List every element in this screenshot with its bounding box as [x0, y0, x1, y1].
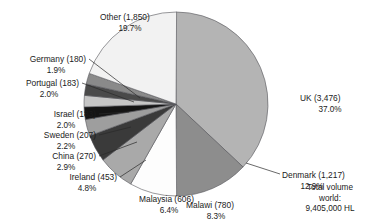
pie-label-name-germany: Germany (180) [30, 54, 87, 64]
pie-label-name-portugal: Portugal (183) [26, 78, 79, 88]
pie-chart-canvas: UK (3,476)37.0%Denmark (1,217)12.9%Malaw… [0, 0, 371, 224]
pie-label-percent-china: 2.9% [57, 163, 76, 172]
pie-label-percent-malawi: 8.3% [207, 212, 226, 221]
pie-label-percent-israel: 2.0% [57, 121, 76, 130]
pie-slices-group [84, 12, 268, 196]
total-volume-line3: 9,405,000 HL [305, 204, 355, 213]
pie-label-percent-ireland: 4.8% [78, 184, 97, 193]
total-volume-annotation: Total volume world: 9,405,000 HL [305, 183, 355, 213]
total-volume-line1: Total volume [307, 183, 353, 192]
pie-label-name-sweden: Sweden (207) [44, 130, 96, 140]
pie-label-name-israel: Israel (183) [54, 109, 97, 119]
leader-line-denmark [246, 163, 280, 174]
pie-label-name-china: China (270) [52, 151, 96, 161]
pie-label-percent-portugal: 2.0% [40, 90, 59, 99]
pie-label-percent-uk: 37.0% [318, 105, 341, 114]
pie-label-name-malaysia: Malaysia (606) [139, 194, 194, 204]
pie-label-percent-malaysia: 6.4% [160, 206, 179, 215]
pie-label-percent-sweden: 2.2% [57, 142, 76, 151]
pie-label-percent-germany: 1.9% [47, 66, 66, 75]
pie-label-percent-other: 19.7% [118, 24, 141, 33]
pie-label-name-denmark: Denmark (1,217) [282, 170, 345, 180]
pie-label-name-uk: UK (3,476) [300, 93, 341, 103]
pie-label-name-ireland: Ireland (453) [70, 172, 118, 182]
total-volume-line2: world: [318, 194, 341, 203]
pie-chart-figure: UK (3,476)37.0%Denmark (1,217)12.9%Malaw… [0, 0, 371, 224]
pie-label-name-other: Other (1,850) [100, 12, 150, 22]
